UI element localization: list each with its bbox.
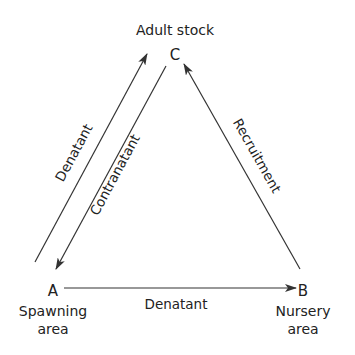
node-c-letter: C xyxy=(170,46,180,64)
node-a-label-line1: Spawning xyxy=(19,303,87,319)
edge-b-to-c-arrow xyxy=(184,64,300,269)
node-a-letter: A xyxy=(48,282,59,300)
edge-a-to-b-label: Denatant xyxy=(145,296,208,312)
node-b-letter: B xyxy=(298,282,308,300)
migration-triangle-diagram: Adult stock C A Spawning area B Nursery … xyxy=(0,0,355,355)
node-c-label: Adult stock xyxy=(136,22,215,38)
node-b-label-line2: area xyxy=(287,321,318,337)
edge-b-to-c-label: Recruitment xyxy=(230,115,285,195)
edge-a-to-c-label: Denatant xyxy=(52,121,96,184)
edge-c-to-a-label: Contranatant xyxy=(86,131,143,217)
node-a-label-line2: area xyxy=(37,321,68,337)
node-b-label-line1: Nursery xyxy=(275,303,330,319)
